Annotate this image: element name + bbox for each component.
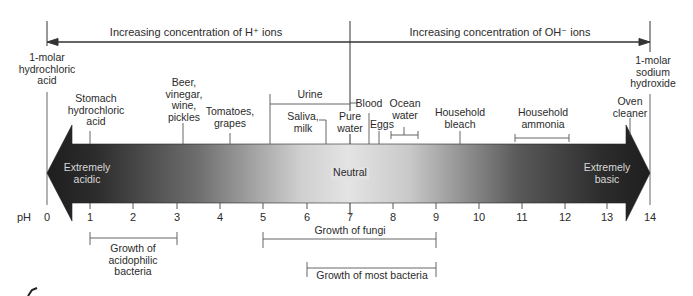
ph-tick-13: 13 — [601, 211, 613, 223]
ph-tick-5: 5 — [260, 211, 266, 223]
ph-tick-0: 0 — [44, 211, 50, 223]
substance-oven-cleaner: Ovencleaner — [613, 96, 647, 119]
ph-tick-14: 14 — [644, 211, 656, 223]
acid-direction-label: Increasing concentration of H⁺ ions — [110, 27, 282, 39]
substance-1m-hcl: 1-molarhydrochloricacid — [19, 52, 76, 87]
growth-acidophilic-bacteria: Growth ofacidophilicbacteria — [108, 243, 157, 278]
ph-scale-diagram — [0, 0, 693, 296]
ph-tick-10: 10 — [473, 211, 485, 223]
ph-tick-4: 4 — [217, 211, 223, 223]
ph-tick-7: 7 — [347, 211, 353, 223]
ph-tick-12: 12 — [559, 211, 571, 223]
neutral-label: Neutral — [331, 167, 369, 179]
growth-fungi: Growth of fungi — [312, 225, 387, 237]
extremely-acidic-label: Extremelyacidic — [64, 162, 111, 185]
ph-tick-1: 1 — [87, 211, 93, 223]
substance-urine: Urine — [297, 89, 322, 101]
arrowhead-left-icon — [47, 39, 58, 46]
substance-blood: Blood — [356, 98, 383, 110]
corner-mark-icon — [28, 288, 37, 296]
ph-tick-11: 11 — [516, 211, 527, 223]
base-direction-label: Increasing concentration of OH⁻ ions — [410, 27, 591, 39]
substance-pure-water: Purewater — [336, 111, 364, 134]
substance-stomach-acid: Stomachhydrochloricacid — [68, 93, 125, 128]
extremely-basic-label: Extremelybasic — [584, 162, 631, 185]
ph-tick-2: 2 — [130, 211, 136, 223]
ph-tick-3: 3 — [174, 211, 180, 223]
substance-household-bleach: Householdbleach — [435, 107, 485, 130]
substance-ocean-water: Oceanwater — [390, 98, 421, 121]
substance-1m-naoh: 1-molarsodiumhydroxide — [630, 55, 676, 90]
substance-saliva-milk: Saliva,milk — [287, 111, 319, 134]
arrowhead-right-icon — [639, 39, 650, 46]
substance-beer-vinegar: Beer,vinegar,wine,pickles — [166, 77, 203, 123]
ph-tick-9: 9 — [433, 211, 439, 223]
growth-most-bacteria: Growth of most bacteria — [316, 270, 427, 282]
substance-tomatoes: Tomatoes,grapes — [206, 106, 254, 129]
ph-tick-8: 8 — [390, 211, 396, 223]
ph-tick-6: 6 — [304, 211, 310, 223]
substance-household-ammonia: Householdammonia — [518, 107, 568, 130]
ph-axis-label: pH — [17, 211, 31, 223]
ph-ticks — [90, 203, 607, 209]
